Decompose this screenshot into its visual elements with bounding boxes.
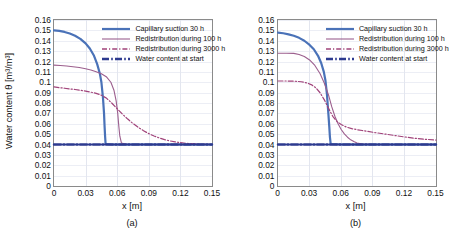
legend-item: Redistribution during 100 h xyxy=(101,34,225,44)
y-axis-tick-label: 0.11 xyxy=(35,68,51,76)
y-axis-tick-label: 0.04 xyxy=(258,140,274,148)
legend-swatch-icon xyxy=(325,54,355,64)
y-axis-tick-label: 0.09 xyxy=(258,88,274,96)
x-axis-tick-label: 0.03 xyxy=(301,189,317,197)
y-axis-tick-label: 0.01 xyxy=(35,171,51,179)
x-axis-tick-label: 0.09 xyxy=(364,189,380,197)
plot-area-a: 00.010.020.030.040.050.060.070.080.090.1… xyxy=(53,19,213,187)
legend-swatch-icon xyxy=(101,34,131,44)
x-axis-tick-label: 0.15 xyxy=(204,189,220,197)
legend-item: Redistribution during 3000 h xyxy=(325,44,449,54)
legend-swatch-icon xyxy=(325,24,355,34)
y-axis-tick-label: 0.09 xyxy=(35,88,51,96)
y-axis-tick-label: 0.11 xyxy=(259,68,275,76)
legend-label: Capillary suction 30 h xyxy=(359,24,428,34)
y-axis-tick-label: 0.05 xyxy=(35,130,51,138)
y-axis-tick-label: 0.1 xyxy=(263,78,275,86)
x-axis-tick-label: 0.12 xyxy=(172,189,188,197)
x-axis-label-b: x [m] xyxy=(277,201,435,211)
y-axis-tick-label: 0.06 xyxy=(258,120,274,128)
legend-item: Capillary suction 30 h xyxy=(101,24,225,34)
plot-area-b: 00.010.020.030.040.050.060.070.080.090.1… xyxy=(277,19,437,187)
y-axis-tick-label: 0.02 xyxy=(258,161,274,169)
y-axis-tick-label: 0 xyxy=(270,182,275,190)
series-line xyxy=(278,53,436,144)
legend-label: Redistribution during 3000 h xyxy=(135,44,225,54)
y-axis-tick-label: 0.14 xyxy=(35,37,51,45)
x-axis-tick-label: 0 xyxy=(52,189,57,197)
y-axis-tick-label: 0.15 xyxy=(258,26,274,34)
y-axis-tick-label: 0.01 xyxy=(258,171,274,179)
y-axis-tick-label: 0.12 xyxy=(35,57,51,65)
y-axis-tick-label: 0.16 xyxy=(258,16,274,24)
y-axis-tick-label: 0.04 xyxy=(35,140,51,148)
y-axis-tick-label: 0.15 xyxy=(35,26,51,34)
legend-item: Capillary suction 30 h xyxy=(325,24,449,34)
panel-caption-b: (b) xyxy=(277,218,435,228)
series-line xyxy=(54,65,212,144)
legend: Capillary suction 30 hRedistribution dur… xyxy=(101,24,225,64)
legend-label: Water content at start xyxy=(135,54,203,64)
x-axis-label-a: x [m] xyxy=(53,201,211,211)
x-axis-tick-label: 0.06 xyxy=(109,189,125,197)
panel-b: 00.010.020.030.040.050.060.070.080.090.1… xyxy=(224,0,448,238)
legend-item: Water content at start xyxy=(325,54,449,64)
legend-label: Redistribution during 3000 h xyxy=(359,44,449,54)
legend-item: Redistribution during 3000 h xyxy=(101,44,225,54)
legend-swatch-icon xyxy=(101,24,131,34)
x-axis-tick-label: 0 xyxy=(275,189,280,197)
legend-label: Water content at start xyxy=(359,54,427,64)
legend-swatch-icon xyxy=(325,34,355,44)
x-axis-tick-label: 0.15 xyxy=(427,189,443,197)
legend-swatch-icon xyxy=(101,54,131,64)
y-axis-label-a: Water content θ [m³/m³] xyxy=(2,26,16,176)
x-axis-tick-label: 0.03 xyxy=(77,189,93,197)
panel-caption-a: (a) xyxy=(53,218,211,228)
panel-a: Water content θ [m³/m³] 00.010.020.030.0… xyxy=(0,0,224,238)
legend-swatch-icon xyxy=(101,44,131,54)
x-axis-tick-label: 0.06 xyxy=(333,189,349,197)
y-axis-tick-label: 0.03 xyxy=(35,151,51,159)
series-line xyxy=(278,81,436,140)
x-axis-tick-label: 0.12 xyxy=(396,189,412,197)
legend-label: Redistribution during 100 h xyxy=(359,34,445,44)
y-axis-tick-label: 0.13 xyxy=(258,47,274,55)
legend-swatch-icon xyxy=(325,44,355,54)
y-axis-tick-label: 0.07 xyxy=(258,109,274,117)
y-axis-tick-label: 0.03 xyxy=(258,151,274,159)
legend-label: Capillary suction 30 h xyxy=(135,24,204,34)
y-axis-tick-label: 0.05 xyxy=(258,130,274,138)
legend-label: Redistribution during 100 h xyxy=(135,34,221,44)
x-axis-tick-label: 0.09 xyxy=(141,189,157,197)
y-axis-tick-label: 0.1 xyxy=(39,78,51,86)
legend-item: Water content at start xyxy=(101,54,225,64)
y-axis-tick-label: 0.14 xyxy=(258,37,274,45)
y-axis-tick-label: 0.12 xyxy=(258,57,274,65)
series-line xyxy=(54,87,212,145)
y-axis-tick-label: 0.13 xyxy=(35,47,51,55)
y-axis-tick-label: 0.16 xyxy=(35,16,51,24)
y-axis-tick-label: 0.07 xyxy=(35,109,51,117)
legend: Capillary suction 30 hRedistribution dur… xyxy=(325,24,449,64)
y-axis-tick-label: 0.08 xyxy=(35,99,51,107)
y-axis-tick-label: 0.06 xyxy=(35,120,51,128)
y-axis-tick-label: 0 xyxy=(46,182,51,190)
y-axis-tick-label: 0.02 xyxy=(35,161,51,169)
y-axis-tick-label: 0.08 xyxy=(258,99,274,107)
legend-item: Redistribution during 100 h xyxy=(325,34,449,44)
